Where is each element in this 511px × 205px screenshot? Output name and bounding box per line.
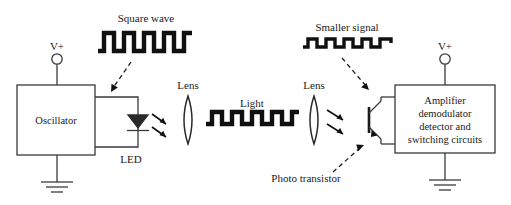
- photo-incident-rays: [327, 110, 343, 134]
- v-plus-right-label: V+: [438, 40, 452, 52]
- amplifier-line-2: demodulator: [418, 108, 472, 119]
- led-diode: [127, 115, 149, 131]
- square-wave-pointer: [111, 62, 131, 92]
- ground-left: [41, 155, 73, 192]
- led-label: LED: [120, 153, 141, 165]
- lens-left-label: Lens: [177, 79, 198, 91]
- v-plus-right: [440, 54, 450, 85]
- lens-right: [310, 96, 318, 144]
- photo-transistor-label: Photo transistor: [271, 172, 341, 184]
- opto-isolator-diagram: V+ V+ Square wave Smaller signal Light L…: [0, 0, 511, 205]
- oscillator-block-label: Oscillator: [35, 115, 77, 126]
- smaller-signal-label: Smaller signal: [315, 21, 378, 33]
- light-label: Light: [240, 97, 264, 109]
- photo-transistor-pointer: [333, 145, 364, 173]
- lens-right-label: Lens: [303, 79, 324, 91]
- led-emission-rays: [152, 114, 166, 137]
- diagram-canvas: V+ V+ Square wave Smaller signal Light L…: [0, 0, 511, 205]
- led-circuit-loop: [95, 97, 138, 147]
- amplifier-line-4: switching circuits: [408, 134, 482, 145]
- square-wave-label: Square wave: [118, 12, 175, 24]
- amplifier-block-label: Amplifier demodulator detector and switc…: [408, 95, 482, 145]
- amplifier-line-3: detector and: [419, 121, 471, 132]
- smaller-signal-pointer: [342, 58, 369, 90]
- light-wave-graphic: [206, 112, 299, 124]
- square-wave-graphic: [98, 33, 192, 51]
- v-plus-left-label: V+: [50, 40, 64, 52]
- ground-right: [429, 153, 461, 190]
- v-plus-left: [52, 54, 62, 85]
- smaller-signal-wave-graphic: [303, 39, 391, 47]
- lens-left: [184, 96, 192, 144]
- photo-transistor: [369, 97, 395, 144]
- amplifier-line-1: Amplifier: [424, 95, 466, 106]
